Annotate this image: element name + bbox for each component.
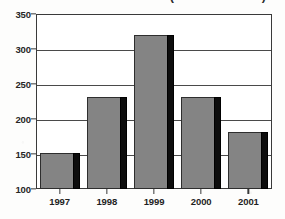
bar-2000: [181, 97, 221, 189]
bar-1997: [40, 153, 80, 189]
x-axis-tick-mark: [106, 189, 107, 194]
x-axis: 19971998199920002001: [36, 189, 272, 219]
bar-shadow: [167, 35, 174, 189]
y-axis-tick-label: 250: [0, 79, 31, 90]
x-axis-tick-label: 2000: [191, 196, 212, 207]
bar-body: [40, 153, 73, 189]
bar-body: [87, 97, 120, 189]
x-axis-tick-mark: [59, 189, 60, 194]
y-axis-tick-label: 300: [0, 44, 31, 55]
bar-1998: [87, 97, 127, 189]
bar-shadow: [120, 97, 127, 189]
x-axis-tick-label: 2001: [238, 196, 259, 207]
x-axis-tick-mark: [153, 189, 154, 194]
bar-shadow: [261, 132, 268, 189]
x-axis-tick-mark: [201, 189, 202, 194]
y-axis-tick-label: 350: [0, 9, 31, 20]
bar-body: [134, 35, 167, 189]
y-axis-tick-label: 150: [0, 149, 31, 160]
bar-1999: [134, 35, 174, 189]
bar-body: [228, 132, 261, 189]
x-axis-tick-label: 1998: [96, 196, 117, 207]
bar-shadow: [73, 153, 80, 189]
bar-body: [181, 97, 214, 189]
y-axis-tick-label: 200: [0, 114, 31, 125]
bars-container: [36, 14, 272, 189]
bar-2001: [228, 132, 268, 189]
x-axis-tick-label: 1997: [49, 196, 70, 207]
y-axis: 100150200250300350: [0, 0, 31, 219]
x-axis-tick-label: 1999: [144, 196, 165, 207]
bar-chart: (million dollars) 100150200250300350 199…: [0, 0, 285, 219]
x-axis-tick-mark: [248, 189, 249, 194]
chart-title: (million dollars): [151, 0, 285, 3]
bar-shadow: [214, 97, 221, 189]
y-axis-tick-label: 100: [0, 184, 31, 195]
